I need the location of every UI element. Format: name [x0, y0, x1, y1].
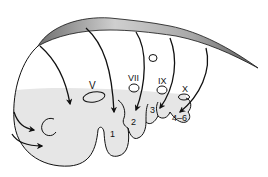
- label-v: V: [89, 80, 96, 91]
- label-ix: IX: [158, 76, 167, 86]
- label-x: X: [182, 84, 188, 94]
- label-arch-4-6: 4–6: [172, 113, 187, 123]
- label-arch-2: 2: [131, 117, 136, 127]
- shaded-pharyngeal-region: [0, 88, 200, 177]
- embryo-body: [0, 32, 200, 177]
- label-vii: VII: [128, 73, 139, 83]
- label-arch-3: 3: [150, 105, 155, 115]
- label-arch-1: 1: [110, 129, 115, 139]
- neural-crest-diagram: V VII IX X 1 2 3 4–6: [0, 0, 268, 177]
